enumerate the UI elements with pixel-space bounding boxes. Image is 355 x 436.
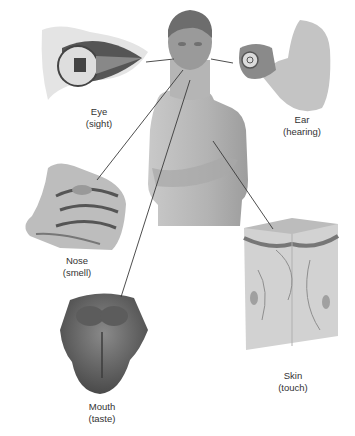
mouth-organ-text: Mouth [67,401,137,413]
tongue-illustration [60,293,148,394]
man-torso-illustration [148,10,248,226]
nose-illustration [25,163,126,250]
nose-organ-text: Nose [42,255,112,267]
skin-block-illustration [244,218,338,350]
eye-connector-line [146,59,174,62]
skin-label: Skin (touch) [258,370,328,393]
senses-diagram: Eye (sight) Ear (hearing) Nose (smell) M… [0,0,355,436]
mouth-label: Mouth (taste) [67,401,137,424]
eye-label: Eye (sight) [64,106,134,129]
skin-sense-text: (touch) [258,382,328,394]
ear-organ-text: Ear [267,114,337,126]
skin-organ-text: Skin [258,370,328,382]
ear-connector-line [211,59,233,63]
mouth-sense-text: (taste) [67,413,137,425]
ear-illustration [239,20,330,111]
ear-label: Ear (hearing) [267,114,337,137]
nose-label: Nose (smell) [42,255,112,278]
eye-illustration [42,26,148,100]
ear-sense-text: (hearing) [267,126,337,138]
eye-sense-text: (sight) [64,118,134,130]
nose-sense-text: (smell) [42,267,112,279]
eye-organ-text: Eye [64,106,134,118]
